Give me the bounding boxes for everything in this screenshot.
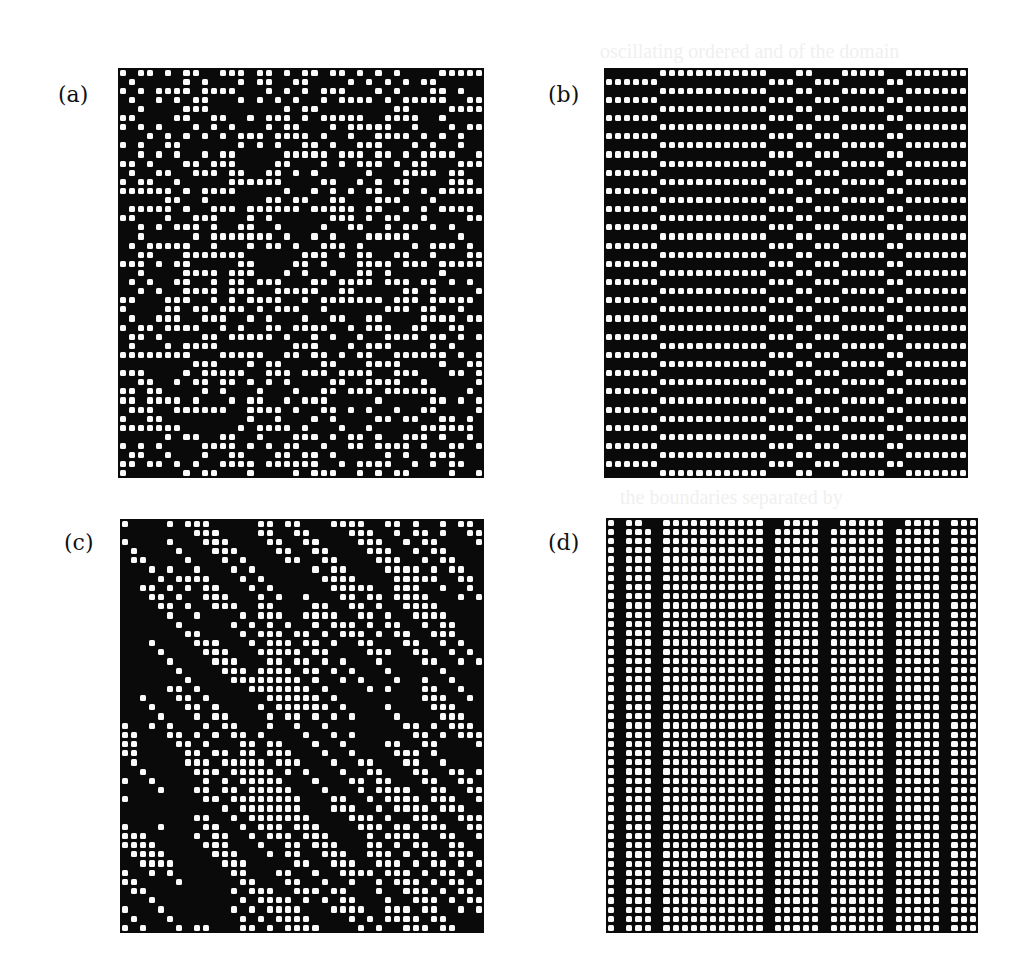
panel-b-label: (b): [548, 82, 579, 107]
bleed-through-text-middle: the boundaries separated by: [620, 486, 843, 509]
panel-d-spacetime-pattern: [606, 518, 978, 933]
panel-b-spacetime-pattern: [604, 68, 968, 478]
cell-grid: [604, 68, 968, 478]
cell-grid: [120, 519, 484, 932]
panel-a-spacetime-pattern: [118, 68, 484, 478]
panel-d-label: (d): [548, 530, 579, 555]
panel-c-spacetime-pattern: [120, 519, 484, 933]
bleed-through-text-top: oscillating ordered and of the domain: [600, 40, 899, 63]
cell-grid: [606, 518, 978, 933]
cell-grid: [118, 68, 484, 478]
panel-a-label: (a): [58, 82, 88, 107]
panel-c-label: (c): [64, 530, 94, 555]
